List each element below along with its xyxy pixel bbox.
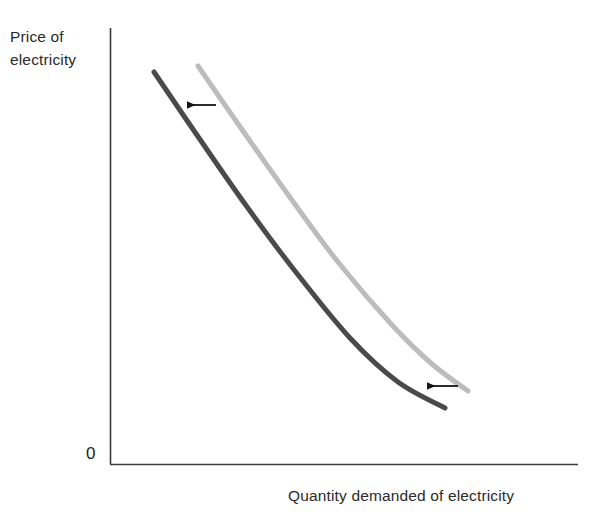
origin-label: 0 xyxy=(86,444,95,464)
y-axis-label-line2: electricity xyxy=(10,48,76,71)
x-axis-label: Quantity demanded of electricity xyxy=(288,484,514,507)
y-axis-label-line1: Price of xyxy=(10,28,64,45)
figure-container: Price of electricity Quantity demanded o… xyxy=(0,0,604,519)
demand-curve-original xyxy=(198,66,468,391)
demand-curve-shifted xyxy=(154,72,445,408)
y-axis-label: Price of electricity xyxy=(10,25,76,71)
demand-curve-plot xyxy=(0,0,604,519)
